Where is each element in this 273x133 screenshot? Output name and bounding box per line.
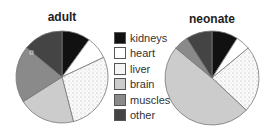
legend-label: kidneys xyxy=(130,32,167,44)
legend-label: brain xyxy=(130,78,154,90)
legend-item-kidneys: kidneys xyxy=(114,30,170,46)
legend-item-muscles: muscles xyxy=(114,92,170,108)
legend-swatch xyxy=(114,47,126,59)
legend-swatch xyxy=(114,78,126,90)
legend-item-heart: heart xyxy=(114,46,170,62)
adult-pie xyxy=(16,31,108,123)
legend-swatch xyxy=(114,63,126,75)
legend-item-other: other xyxy=(114,108,170,124)
legend-swatch xyxy=(114,32,126,44)
legend-swatch xyxy=(114,94,126,106)
legend-label: liver xyxy=(130,63,150,75)
neonate-pie xyxy=(165,31,259,125)
legend: kidneysheartliverbrainmusclesother xyxy=(114,30,170,123)
legend-label: heart xyxy=(130,47,155,59)
legend-label: other xyxy=(130,109,155,121)
legend-item-brain: brain xyxy=(114,77,170,93)
legend-item-liver: liver xyxy=(114,61,170,77)
legend-swatch xyxy=(114,109,126,121)
legend-label: muscles xyxy=(130,94,170,106)
